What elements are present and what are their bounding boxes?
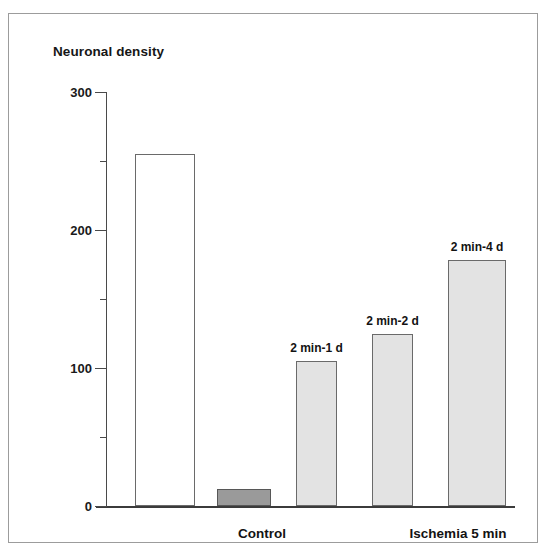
y-tick-mark: [95, 368, 107, 369]
bar: [135, 154, 195, 506]
y-tick-mark: [100, 299, 107, 300]
y-tick-mark: [95, 92, 107, 93]
y-tick-label: 100: [70, 361, 92, 376]
bar: 2 min-2 d: [372, 334, 413, 507]
y-tick-mark: [100, 161, 107, 162]
bar: 2 min-4 d: [448, 260, 506, 506]
bar: [217, 489, 271, 506]
x-axis-line: [96, 506, 515, 508]
bar-label: 2 min-1 d: [290, 341, 343, 355]
y-tick-label: 200: [70, 223, 92, 238]
group-caption: Ischemia 5 min: [410, 526, 507, 541]
y-tick-label: 300: [70, 85, 92, 100]
y-tick-mark: [95, 506, 107, 507]
figure-frame: Neuronal density 0100200300 2 min-1 d2 m…: [8, 13, 538, 543]
chart-title: Neuronal density: [53, 44, 164, 59]
y-tick-mark: [95, 230, 107, 231]
bar: 2 min-1 d: [296, 361, 337, 506]
bar-label: 2 min-4 d: [451, 240, 504, 254]
group-caption: Control: [238, 526, 286, 541]
y-tick-label: 0: [85, 499, 92, 514]
plot-area: 0100200300 2 min-1 d2 min-2 d2 min-4 d C…: [106, 92, 515, 506]
bar-label: 2 min-2 d: [366, 314, 419, 328]
y-tick-mark: [100, 437, 107, 438]
figure-container: Neuronal density 0100200300 2 min-1 d2 m…: [0, 0, 546, 556]
